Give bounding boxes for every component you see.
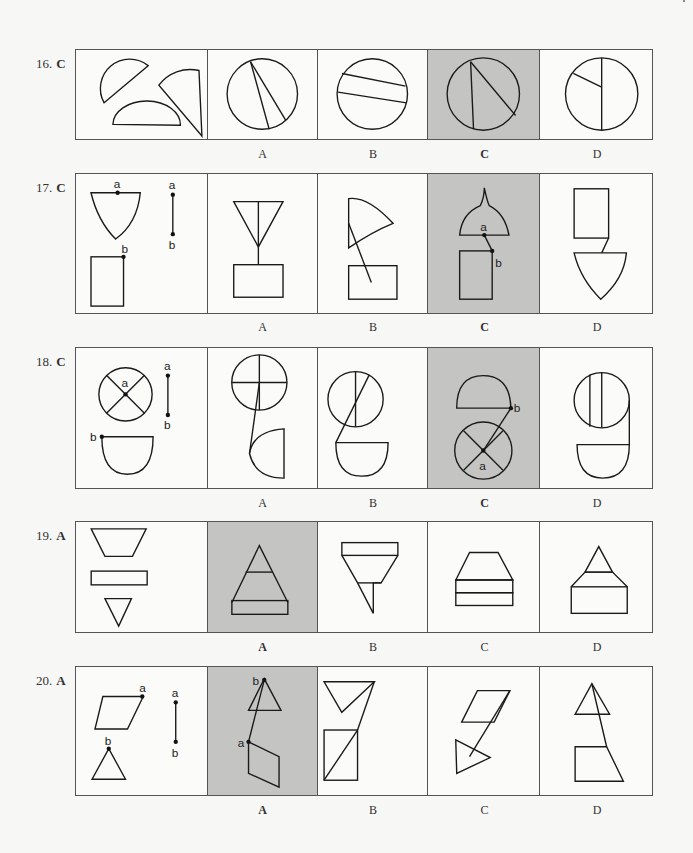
question-17-option-a[interactable] [208, 174, 319, 313]
option-label-c: C [428, 803, 541, 818]
point-label-a: a [114, 177, 121, 191]
option-label-d: D [541, 640, 653, 655]
point-label-b: b [495, 256, 502, 270]
question-19-row [75, 521, 653, 633]
question-20-option-c[interactable] [428, 667, 541, 795]
question-17-row: a a b b a b [75, 173, 653, 314]
question-18-prompt-figure: a a b b [76, 348, 208, 488]
point-label-b: b [169, 238, 176, 252]
question-16-row [75, 49, 653, 140]
point-label-b: b [514, 401, 521, 415]
question-20-prompt-figure: a a b b [76, 667, 208, 795]
option-label-b: B [318, 803, 428, 818]
question-17-number: 17.C [36, 181, 66, 195]
option-label-c: C [428, 640, 541, 655]
point-label-b: b [105, 734, 112, 748]
question-18-row: a a b b b [75, 347, 653, 489]
question-16-option-labels: A B C D [75, 147, 653, 162]
question-19-option-a[interactable] [208, 522, 319, 632]
question-answer: C [56, 180, 65, 195]
option-label-b: B [318, 320, 428, 335]
question-17-option-b[interactable] [318, 174, 428, 313]
point-label-a: a [172, 686, 179, 700]
point-label-a: a [169, 178, 176, 192]
question-18-option-b[interactable] [318, 348, 428, 488]
question-19-option-d[interactable] [540, 522, 652, 632]
question-18-option-labels: A B C D [75, 496, 653, 511]
question-answer: A [56, 528, 65, 543]
option-label-a: A [207, 803, 318, 818]
option-label-d: D [541, 320, 653, 335]
question-20-row: a a b b b a [75, 666, 653, 796]
option-label-a: A [207, 320, 318, 335]
question-16-option-a[interactable] [208, 50, 319, 139]
question-20-option-d[interactable] [540, 667, 652, 795]
point-label-a: a [164, 359, 171, 373]
question-17-option-labels: A B C D [75, 320, 653, 335]
question-number: 18. [36, 354, 52, 369]
question-19-option-c[interactable] [428, 522, 541, 632]
question-number: 20. [36, 673, 52, 688]
question-18-option-c[interactable]: b a [428, 348, 541, 488]
option-label-d: D [541, 147, 653, 162]
point-label-b: b [164, 418, 171, 432]
option-label-c: C [428, 496, 541, 511]
question-16-number: 16.C [36, 57, 66, 71]
question-18-number: 18.C [36, 355, 66, 369]
question-16-option-d[interactable] [540, 50, 652, 139]
question-answer: C [56, 354, 65, 369]
question-19-option-b[interactable] [318, 522, 428, 632]
question-17-option-c[interactable]: a b [428, 174, 541, 313]
point-label-b: b [172, 746, 179, 760]
point-label-a: a [480, 220, 487, 234]
question-16-option-b[interactable] [318, 50, 428, 139]
question-19-prompt-figure [76, 522, 208, 632]
question-answer: A [56, 673, 65, 688]
option-label-d: D [541, 496, 653, 511]
option-label-a: A [207, 496, 318, 511]
question-19-number: 19.A [36, 529, 66, 543]
question-16-prompt-figure [76, 50, 208, 139]
option-label-d: D [541, 803, 653, 818]
point-label-b: b [122, 242, 129, 256]
point-label-b: b [252, 674, 259, 688]
question-number: 16. [36, 56, 52, 71]
question-17-prompt-figure: a a b b [76, 174, 208, 313]
question-18-option-d[interactable] [540, 348, 652, 488]
point-label-a: a [237, 736, 244, 750]
question-18-option-a[interactable] [208, 348, 319, 488]
question-17-option-d[interactable] [540, 174, 652, 313]
question-20-option-a[interactable]: b a [208, 667, 319, 795]
question-20-option-labels: A B C D [75, 803, 653, 818]
question-number: 19. [36, 528, 52, 543]
question-answer: C [56, 56, 65, 71]
point-label-a: a [479, 459, 486, 473]
question-19-option-labels: A B C D [75, 640, 653, 655]
question-20-number: 20.A [36, 674, 66, 688]
question-16-option-c[interactable] [428, 50, 541, 139]
option-label-b: B [318, 640, 428, 655]
point-label-a: a [139, 681, 146, 695]
option-label-a: A [207, 640, 318, 655]
point-label-a: a [122, 376, 129, 390]
option-label-b: B [318, 496, 428, 511]
option-label-b: B [318, 147, 428, 162]
page-corner-mark [683, 0, 685, 2]
option-label-c: C [428, 320, 541, 335]
option-label-c: C [428, 147, 541, 162]
option-label-a: A [207, 147, 318, 162]
question-20-option-b[interactable] [318, 667, 428, 795]
point-label-b: b [90, 430, 97, 444]
question-number: 17. [36, 180, 52, 195]
